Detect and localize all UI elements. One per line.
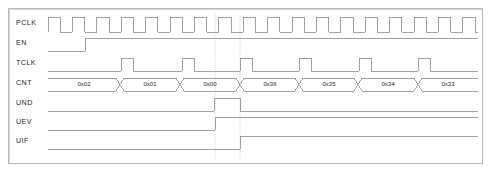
signal-label-cnt: CNT <box>16 80 32 87</box>
pulse-waveform <box>48 98 478 111</box>
signal-label-und: UND <box>16 100 33 107</box>
level-waveform <box>48 117 478 130</box>
signal-pclk <box>48 17 478 32</box>
signal-label-tclk: TCLK <box>16 60 36 67</box>
cnt-value: 0x00 <box>186 81 234 87</box>
level-waveform <box>48 136 478 149</box>
signal-en <box>48 38 478 51</box>
signal-und <box>48 98 478 111</box>
signal-label-en: EN <box>16 40 27 47</box>
timing-diagram: PCLKENTCLKCNTUNDUEVUIF 0x020x010x000x360… <box>0 0 492 174</box>
cnt-value: 0x34 <box>364 81 412 87</box>
signal-uif <box>48 136 478 149</box>
clock-waveform <box>48 17 478 32</box>
cnt-value: 0x33 <box>424 81 472 87</box>
signal-label-uif: UIF <box>16 138 29 145</box>
level-waveform <box>48 38 478 51</box>
signal-tclk <box>48 58 478 71</box>
cnt-value: 0x35 <box>305 81 353 87</box>
signal-label-uev: UEV <box>16 119 32 126</box>
cnt-value: 0x01 <box>126 81 174 87</box>
pulse-train-waveform <box>48 58 478 71</box>
signal-label-pclk: PCLK <box>16 20 36 27</box>
cnt-value: 0x02 <box>60 81 108 87</box>
signal-uev <box>48 117 478 130</box>
cnt-value: 0x36 <box>246 81 294 87</box>
